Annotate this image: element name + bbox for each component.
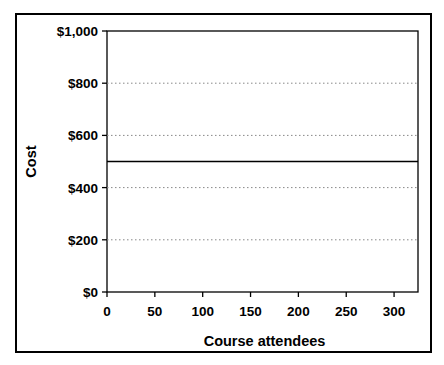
x-tick-label: 100 [191,304,214,319]
x-tick-label: 250 [335,304,358,319]
cost-chart: $0$200$400$600$800$1,0000501001502002503… [0,0,444,365]
y-tick-label: $1,000 [57,24,98,39]
y-tick-label: $600 [68,128,98,143]
x-tick-label: 300 [383,304,406,319]
y-tick-label: $0 [83,285,98,300]
y-tick-label: $800 [68,76,98,91]
x-tick-label: 50 [147,304,162,319]
x-tick-label: 200 [287,304,310,319]
y-tick-label: $200 [68,233,98,248]
y-tick-label: $400 [68,181,98,196]
x-axis-title: Course attendees [204,333,326,349]
x-tick-label: 0 [103,304,111,319]
x-tick-label: 150 [239,304,262,319]
chart-frame: $0$200$400$600$800$1,0000501001502002503… [0,0,444,365]
y-axis-title: Cost [23,145,39,177]
